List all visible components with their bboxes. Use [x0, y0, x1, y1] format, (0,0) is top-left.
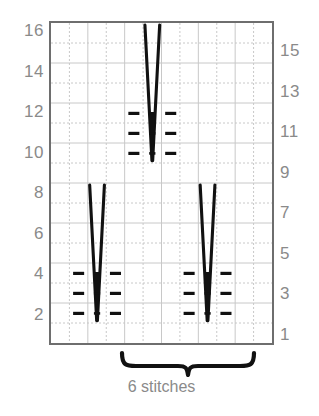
row-number-label: 4: [34, 265, 44, 282]
row-number-label: 12: [24, 103, 44, 120]
chart-caption: 6 stitches: [49, 378, 274, 396]
stitch-symbol-layer: [51, 23, 272, 343]
row-number-label: 5: [280, 245, 290, 262]
row-number-label: 1: [280, 326, 290, 343]
row-number-label: 7: [280, 204, 290, 221]
knitting-chart: 161412108642 15131197531 6 stitches: [0, 0, 319, 416]
row-number-label: 13: [280, 83, 300, 100]
row-number-label: 8: [34, 184, 44, 201]
row-number-label: 11: [280, 123, 299, 140]
row-number-label: 6: [34, 225, 44, 242]
row-number-label: 9: [280, 164, 290, 181]
row-axis-left: 161412108642: [8, 21, 44, 345]
row-number-label: 2: [34, 306, 44, 323]
row-number-label: 15: [280, 42, 300, 59]
row-axis-right: 15131197531: [280, 21, 316, 345]
row-number-label: 3: [280, 285, 290, 302]
chart-grid: [49, 21, 274, 345]
brace-icon: [118, 349, 258, 377]
row-number-label: 16: [24, 22, 44, 39]
row-number-label: 10: [24, 144, 44, 161]
row-number-label: 14: [24, 63, 44, 80]
